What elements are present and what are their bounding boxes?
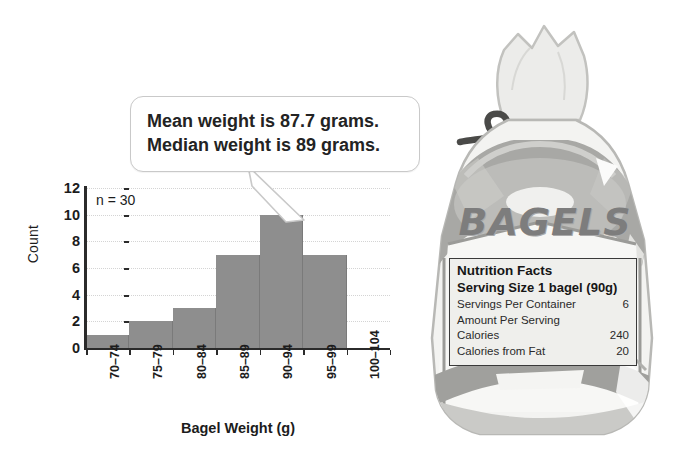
- x-tick-label-85-89: 85–89: [238, 365, 252, 379]
- x-tick-mark: [216, 350, 218, 355]
- nutrition-row-label: Servings Per Container: [457, 297, 576, 313]
- callout-mean-text: Mean weight is 87.7 grams.: [147, 109, 403, 133]
- serving-size-text: Serving Size 1 bagel (90g): [457, 280, 629, 297]
- bagel-bag-illustration: [408, 8, 676, 466]
- x-tick-slot: 75–79: [129, 350, 172, 420]
- x-tick-label-70-74: 70–74: [108, 365, 122, 379]
- x-axis-label: Bagel Weight (g): [86, 420, 390, 436]
- y-axis-label: Count: [25, 199, 41, 289]
- bar-series: [86, 188, 390, 348]
- bagel-hole: [506, 187, 574, 217]
- callout-pointer: [246, 164, 316, 234]
- histogram-chart: 12 10 8 6 4 2 0 Count n = 30 70–74: [0, 0, 420, 466]
- y-tick-mark: [124, 321, 129, 323]
- histogram-bagel-figure: 12 10 8 6 4 2 0 Count n = 30 70–74: [0, 0, 676, 466]
- y-tick-4: 4: [50, 288, 80, 303]
- bar-95-99: [303, 255, 346, 348]
- bar-slot: [347, 188, 390, 348]
- y-tick-8: 8: [50, 234, 80, 249]
- nutrition-row: Calories from Fat 20: [457, 344, 629, 360]
- nutrition-row-value: 240: [610, 328, 629, 344]
- x-tick-mark: [173, 350, 175, 355]
- callout-median-text: Median weight is 89 grams.: [147, 133, 403, 157]
- x-tick-slot: 85–89: [216, 350, 259, 420]
- x-tick-mark: [86, 350, 88, 355]
- y-tick-mark: [124, 215, 129, 217]
- bar-90-94: [260, 215, 303, 348]
- x-tick-slot: 100–104: [347, 350, 390, 420]
- x-tick-label-90-94: 90–94: [281, 365, 295, 379]
- y-axis-line: [84, 186, 87, 350]
- x-tick-label-75-79: 75–79: [151, 365, 165, 379]
- nutrition-facts-title: Nutrition Facts: [457, 263, 629, 280]
- y-axis-ticks: 12 10 8 6 4 2 0: [44, 188, 80, 348]
- bag-twist-top: [497, 26, 587, 120]
- sample-size-annotation: n = 30: [96, 192, 135, 208]
- statistics-callout: Mean weight is 87.7 grams. Median weight…: [130, 96, 420, 172]
- y-tick-2: 2: [50, 314, 80, 329]
- nutrition-facts-panel: Nutrition Facts Serving Size 1 bagel (90…: [449, 258, 637, 366]
- y-tick-mark: [124, 188, 129, 190]
- y-tick-12: 12: [50, 181, 80, 196]
- bar-slot: [86, 188, 129, 348]
- y-tick-mark: [124, 295, 129, 297]
- nutrition-row-value: 6: [623, 297, 629, 313]
- nutrition-row: Calories 240: [457, 328, 629, 344]
- x-tick-mark: [129, 350, 131, 355]
- x-tick-mark: [303, 350, 305, 355]
- bar-slot: [129, 188, 172, 348]
- y-tick-6: 6: [50, 261, 80, 276]
- x-tick-label-80-84: 80–84: [195, 365, 209, 379]
- x-tick-slot: 70–74: [86, 350, 129, 420]
- nutrition-row-value: 20: [616, 344, 629, 360]
- x-tick-label-95-99: 95–99: [325, 365, 339, 379]
- y-tick-10: 10: [50, 208, 80, 223]
- x-tick-slot: 80–84: [173, 350, 216, 420]
- x-tick-mark: [347, 350, 349, 355]
- bar-80-84: [173, 308, 216, 348]
- x-tick-mark: [260, 350, 262, 355]
- x-tick-slot: 95–99: [303, 350, 346, 420]
- y-tick-0: 0: [50, 341, 80, 356]
- nutrition-row: Amount Per Serving: [457, 313, 629, 329]
- y-tick-mark: [124, 241, 129, 243]
- bar-85-89: [216, 255, 259, 348]
- nutrition-row-label: Calories from Fat: [457, 344, 545, 360]
- y-tick-mark: [124, 268, 129, 270]
- x-tick-slot: 90–94: [260, 350, 303, 420]
- x-tick-mark: [390, 350, 392, 355]
- x-tick-label-100-104: 100–104: [368, 365, 382, 379]
- bar-slot: [173, 188, 216, 348]
- nutrition-row-label: Calories: [457, 328, 499, 344]
- nutrition-row: Servings Per Container 6: [457, 297, 629, 313]
- x-axis-ticks: 70–74 75–79 80–84 85–89 90–94 95–99: [86, 350, 390, 420]
- nutrition-row-label: Amount Per Serving: [457, 313, 560, 329]
